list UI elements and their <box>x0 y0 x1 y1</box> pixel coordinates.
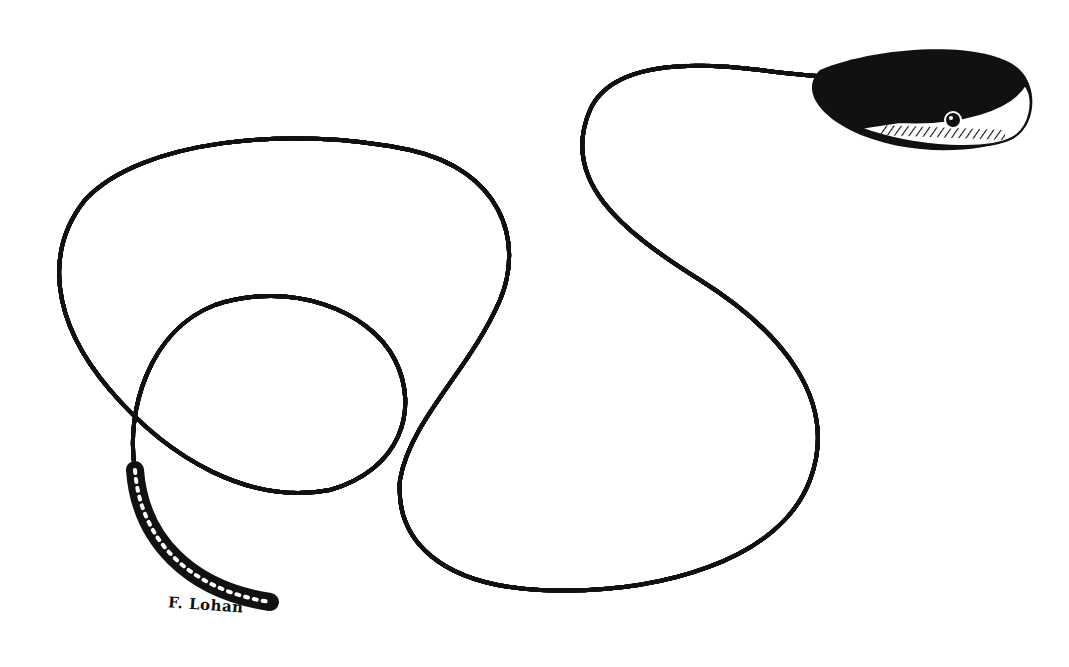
snake-body <box>59 66 900 600</box>
snake-tail <box>135 470 270 602</box>
snake-illustration: F. Lohan <box>0 0 1069 667</box>
snake-head <box>812 49 1032 150</box>
snake-eye-icon <box>945 112 961 128</box>
snake-drawing <box>0 0 1069 667</box>
